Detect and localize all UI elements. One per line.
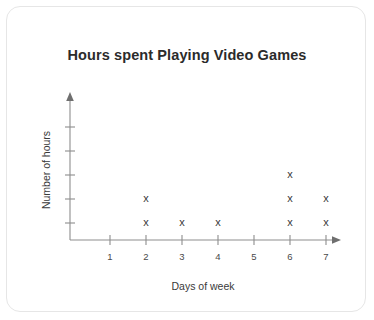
data-marker: x bbox=[215, 216, 221, 228]
data-marker: x bbox=[179, 216, 185, 228]
data-marker-layer: xxxxxxxxx bbox=[143, 168, 329, 228]
data-marker: x bbox=[323, 192, 329, 204]
y-axis-label: Number of hours bbox=[40, 131, 52, 209]
x-tick-label-3: 3 bbox=[179, 251, 184, 262]
data-marker: x bbox=[287, 216, 293, 228]
x-tick-label-6: 6 bbox=[287, 251, 292, 262]
x-axis-arrow-icon bbox=[332, 236, 341, 244]
data-marker: x bbox=[287, 168, 293, 180]
chart-card: Hours spent Playing Video Games 1 2 3 4 … bbox=[6, 6, 366, 312]
x-tick-label-4: 4 bbox=[215, 251, 220, 262]
x-tick-label-1: 1 bbox=[107, 251, 112, 262]
data-marker: x bbox=[323, 216, 329, 228]
dot-plot-chart: 1 2 3 4 5 6 7 xxxxxxxxx Days of week Num… bbox=[7, 7, 367, 313]
x-tick-label-5: 5 bbox=[251, 251, 256, 262]
x-tick-label-7: 7 bbox=[323, 251, 328, 262]
x-axis-label: Days of week bbox=[171, 280, 235, 292]
y-axis-arrow-icon bbox=[66, 92, 74, 101]
data-marker: x bbox=[143, 192, 149, 204]
data-marker: x bbox=[287, 192, 293, 204]
data-marker: x bbox=[143, 216, 149, 228]
x-tick-label-2: 2 bbox=[143, 251, 148, 262]
